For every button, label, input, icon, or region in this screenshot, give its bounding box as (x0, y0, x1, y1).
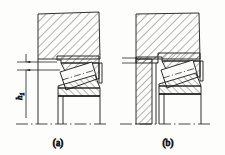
dimension-reference-lines-a (17, 62, 60, 70)
panel-a: h1 (a) (14, 12, 108, 149)
figure-canvas: h1 (a) (0, 0, 225, 155)
caption-a: (a) (53, 138, 64, 149)
shaft-shoulder-b (136, 59, 152, 124)
bearing-mounting-diagram: h1 (a) (0, 0, 225, 155)
spacer-b (122, 57, 158, 63)
caption-b: (b) (162, 138, 173, 149)
dimension-h1-label: h1 (14, 93, 25, 101)
housing-a (38, 12, 100, 59)
housing-b (136, 13, 200, 59)
panel-b: (b) (120, 13, 212, 149)
